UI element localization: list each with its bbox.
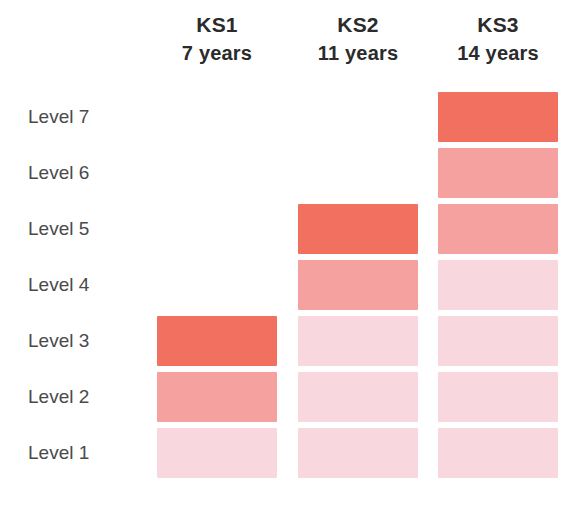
key-stage-levels-chart: KS1 7 years KS2 11 years KS3 14 years Le… [0,0,576,513]
level-block-ks1-level-1 [157,428,277,478]
level-block-ks1-level-3 [157,316,277,366]
level-block-ks2-level-3 [298,316,418,366]
level-block-ks3-level-1 [438,428,558,478]
level-block-ks3-level-4 [438,260,558,310]
level-block-ks3-level-5 [438,204,558,254]
level-block-ks2-level-1 [298,428,418,478]
level-blocks-layer [0,0,576,513]
level-block-ks2-level-5 [298,204,418,254]
level-block-ks3-level-7 [438,92,558,142]
level-block-ks3-level-3 [438,316,558,366]
level-block-ks3-level-6 [438,148,558,198]
level-block-ks1-level-2 [157,372,277,422]
level-block-ks3-level-2 [438,372,558,422]
level-block-ks2-level-2 [298,372,418,422]
level-block-ks2-level-4 [298,260,418,310]
